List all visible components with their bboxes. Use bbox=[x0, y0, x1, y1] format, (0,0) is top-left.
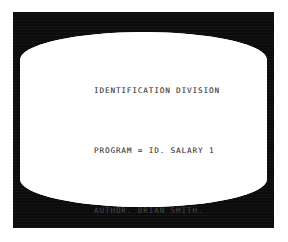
screenshot-stage: IDENTIFICATION DIVISION PROGRAM = ID. SA… bbox=[0, 0, 288, 242]
terminal-line-program-id: PROGRAM = ID. SALARY 1 bbox=[94, 141, 236, 161]
terminal-line-author: AUTHOR. BRIAN SMITH. bbox=[94, 201, 236, 221]
crt-monitor-bezel: IDENTIFICATION DIVISION PROGRAM = ID. SA… bbox=[13, 12, 274, 228]
terminal-line-identification-division: IDENTIFICATION DIVISION bbox=[94, 81, 236, 101]
terminal-text-block: IDENTIFICATION DIVISION PROGRAM = ID. SA… bbox=[94, 41, 236, 228]
